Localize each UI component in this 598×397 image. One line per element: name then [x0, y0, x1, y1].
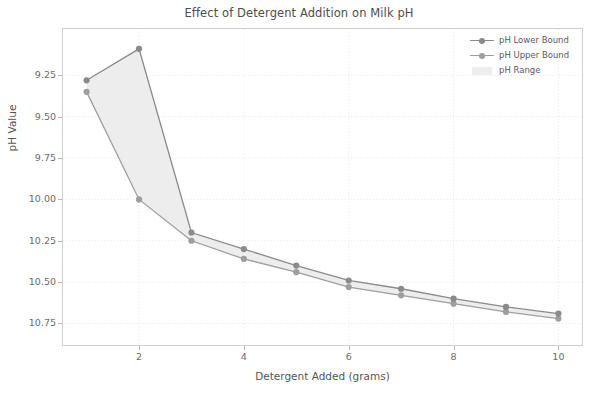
x-tickmark	[139, 346, 140, 350]
legend-marker-line-icon	[470, 35, 494, 46]
y-tick-label: 10.25	[8, 235, 56, 246]
x-tick-label: 10	[538, 351, 578, 362]
legend-label-lower: pH Lower Bound	[499, 36, 569, 45]
y-tick-label: 9.25	[8, 69, 56, 80]
y-tick-label: 9.50	[8, 111, 56, 122]
x-tickmark	[558, 346, 559, 350]
legend-label-upper: pH Upper Bound	[499, 51, 569, 60]
x-axis-label: Detergent Added (grams)	[62, 370, 583, 382]
chart-title: Effect of Detergent Addition on Milk pH	[0, 6, 598, 20]
y-tick-label: 10.75	[8, 317, 56, 328]
x-tickmark	[454, 346, 455, 350]
x-tick-label: 6	[329, 351, 369, 362]
x-tick-label: 8	[434, 351, 474, 362]
legend-label-range: pH Range	[499, 66, 540, 75]
y-axis-label: pH Value	[6, 68, 22, 188]
legend-band-patch-icon	[470, 65, 494, 76]
legend-item-ph-lower-bound: pH Lower Bound	[470, 33, 569, 48]
legend-marker-line-icon	[470, 50, 494, 61]
legend-item-ph-upper-bound: pH Upper Bound	[470, 48, 569, 63]
x-tickmark	[244, 346, 245, 350]
x-tick-label: 2	[119, 351, 159, 362]
ph-range-band	[87, 49, 559, 319]
y-tick-label: 10.00	[8, 193, 56, 204]
chart-legend: pH Lower Bound pH Upper Bound pH Range	[470, 33, 569, 78]
x-tick-label: 4	[224, 351, 264, 362]
y-tick-label: 10.50	[8, 276, 56, 287]
legend-item-ph-range: pH Range	[470, 63, 569, 78]
x-tickmark	[349, 346, 350, 350]
y-tick-label: 9.75	[8, 152, 56, 163]
chart-figure: Effect of Detergent Addition on Milk pH …	[0, 0, 598, 397]
